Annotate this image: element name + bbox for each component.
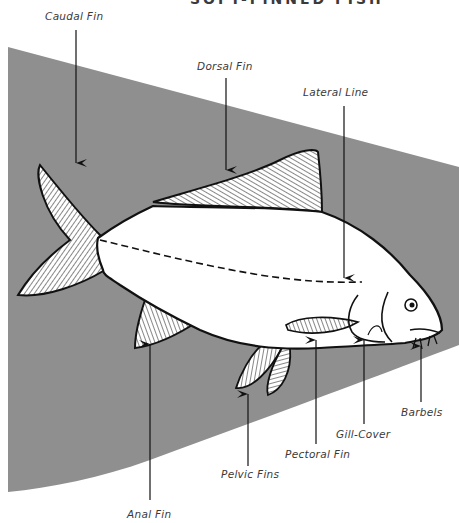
label-caudal-fin: Caudal Fin — [45, 10, 103, 22]
label-pectoral-fin: Pectoral Fin — [285, 448, 350, 460]
fish-anatomy-diagram — [0, 0, 459, 523]
label-pelvic-fins: Pelvic Fins — [221, 468, 279, 480]
label-dorsal-fin: Dorsal Fin — [197, 60, 253, 72]
label-anal-fin: Anal Fin — [127, 508, 172, 520]
label-gill-cover: Gill-Cover — [336, 428, 390, 440]
label-barbels: Barbels — [401, 406, 443, 418]
label-lateral-line: Lateral Line — [303, 86, 368, 98]
